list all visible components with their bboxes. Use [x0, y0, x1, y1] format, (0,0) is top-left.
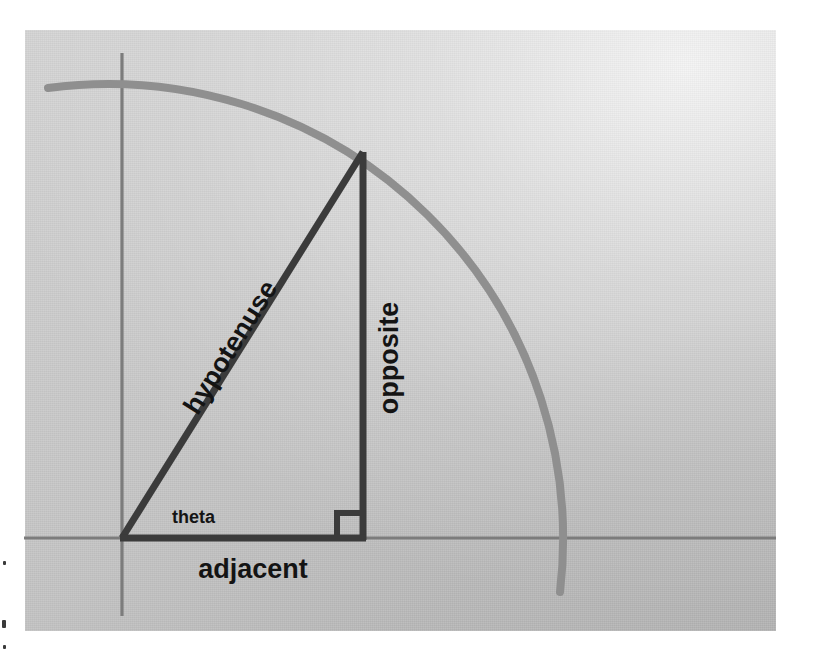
figure-root: hypotenuse opposite adjacent theta	[0, 0, 816, 656]
unit-circle-arc	[48, 84, 563, 592]
label-hypotenuse: hypotenuse	[177, 275, 283, 419]
scan-speck	[3, 645, 6, 649]
label-adjacent: adjacent	[198, 554, 308, 584]
scan-speck	[3, 561, 6, 565]
scan-speck	[2, 620, 6, 628]
trigonometry-diagram: hypotenuse opposite adjacent theta	[0, 0, 816, 656]
label-opposite: opposite	[374, 302, 404, 415]
label-theta: theta	[172, 507, 216, 527]
right-angle-marker	[337, 513, 362, 538]
